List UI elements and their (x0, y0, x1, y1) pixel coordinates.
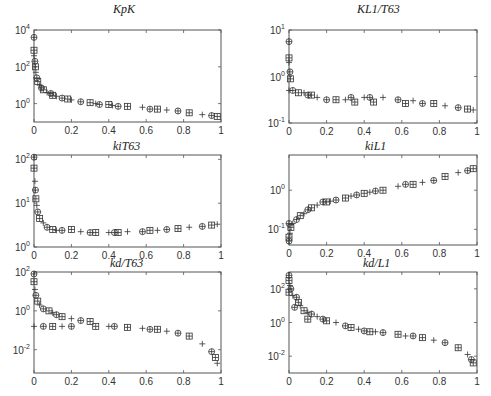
y-tick-label: 104 (15, 23, 30, 36)
x-tick-label: 0 (286, 126, 292, 137)
y-tick-label: 101 (270, 23, 285, 36)
x-tick-label: 0.2 (64, 125, 78, 136)
title-kdL1: kd/L1 (363, 256, 390, 271)
x-tick-label: 0.6 (395, 376, 409, 387)
x-tick-label: 0.6 (395, 248, 409, 259)
x-tick-label: 1 (218, 376, 224, 387)
x-tick-label: 1 (218, 250, 224, 261)
subplot-kiL1: 00.20.40.60.8110-1100 (268, 155, 481, 259)
y-tick-label: 100 (270, 316, 285, 329)
axes-frame (34, 272, 221, 373)
x-tick-label: 0.2 (64, 376, 78, 387)
title-kiT63: kiT63 (113, 139, 140, 154)
x-tick-label: 0.8 (177, 125, 191, 136)
x-tick-label: 0.8 (432, 376, 446, 387)
x-tick-label: 0 (286, 248, 292, 259)
y-tick-label: 100 (15, 240, 30, 253)
y-tick-label: 102 (270, 282, 285, 295)
x-tick-label: 0 (31, 125, 37, 136)
x-tick-label: 1 (218, 125, 224, 136)
x-tick-label: 0.4 (102, 125, 116, 136)
x-tick-label: 0.4 (357, 376, 371, 387)
axes-frame (289, 155, 477, 245)
x-tick-label: 0.8 (432, 248, 446, 259)
x-tick-label: 0.4 (102, 376, 116, 387)
x-tick-label: 0.6 (139, 376, 153, 387)
x-tick-label: 0 (31, 250, 37, 261)
x-tick-label: 0.2 (320, 248, 334, 259)
y-tick-label: 102 (15, 265, 30, 278)
x-tick-label: 0.6 (139, 125, 153, 136)
axes-frame (289, 272, 477, 373)
y-tick-label: 102 (15, 60, 30, 73)
y-tick-label: 100 (15, 304, 30, 317)
x-tick-label: 0.4 (357, 126, 371, 137)
x-tick-label: 0.8 (177, 376, 191, 387)
x-tick-label: 1 (474, 126, 480, 137)
subplot-kiT63: 00.20.40.60.81100101102 (15, 152, 224, 261)
x-tick-label: 0 (286, 376, 292, 387)
subplot-kdT63: 00.20.40.60.8110-2100102 (13, 265, 225, 387)
x-tick-label: 0.6 (395, 126, 409, 137)
y-tick-label: 10-2 (13, 343, 30, 356)
figure-canvas: 00.20.40.60.81100102104 00.20.40.60.8110… (0, 0, 491, 396)
title-kiL1: kiL1 (365, 139, 386, 154)
y-tick-label: 10-1 (268, 116, 285, 129)
x-tick-label: 0.2 (320, 126, 334, 137)
title-KL1T63: KL1/T63 (357, 2, 400, 17)
y-tick-label: 100 (15, 97, 30, 110)
x-tick-label: 0.2 (64, 250, 78, 261)
x-tick-label: 0 (31, 376, 37, 387)
subplot-kpK: 00.20.40.60.81100102104 (15, 23, 224, 136)
x-tick-label: 1 (474, 376, 480, 387)
y-tick-label: 10-1 (268, 222, 285, 235)
x-tick-label: 0.2 (320, 376, 334, 387)
title-kpK: KpK (113, 2, 135, 17)
y-tick-label: 10-2 (268, 349, 285, 362)
y-tick-label: 102 (15, 152, 30, 165)
axes-frame (289, 30, 477, 123)
x-tick-label: 0.8 (432, 126, 446, 137)
subplot-KL1T63: 00.20.40.60.8110-1100101 (268, 23, 481, 137)
x-tick-label: 0.8 (177, 250, 191, 261)
y-tick-label: 101 (15, 196, 30, 209)
x-tick-label: 1 (474, 248, 480, 259)
y-tick-label: 100 (270, 183, 285, 196)
y-tick-label: 100 (270, 70, 285, 83)
subplot-kdL1: 00.20.40.60.8110-2100102 (268, 272, 481, 387)
title-kdT63: kd/T63 (110, 256, 143, 271)
